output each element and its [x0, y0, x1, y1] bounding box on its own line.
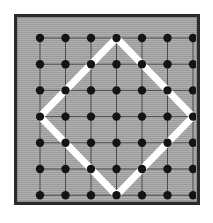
lattice-dot [138, 139, 146, 147]
lattice-dot [87, 34, 95, 42]
lattice-dot [87, 86, 95, 94]
lattice-dot [87, 191, 95, 199]
lattice-dot [189, 191, 197, 199]
lattice-dot [138, 86, 146, 94]
lattice-diagram [17, 17, 197, 202]
lattice-dot [163, 191, 171, 199]
lattice-dot [112, 86, 120, 94]
lattice-dot [138, 34, 146, 42]
lattice-dot [163, 60, 171, 68]
lattice-dot [112, 60, 120, 68]
lattice-dot [189, 34, 197, 42]
lattice-dot [112, 165, 120, 173]
lattice-dot [87, 60, 95, 68]
lattice-dot [189, 86, 197, 94]
lattice-dot [36, 34, 44, 42]
lattice-dot [138, 191, 146, 199]
lattice-dot [112, 112, 120, 120]
lattice-dot [163, 34, 171, 42]
figure-frame [14, 14, 200, 205]
lattice-dot [163, 112, 171, 120]
lattice-dot [36, 139, 44, 147]
lattice-dot [138, 60, 146, 68]
lattice-dot [61, 34, 69, 42]
lattice-dot [61, 191, 69, 199]
lattice-dot [87, 112, 95, 120]
lattice-dot [61, 139, 69, 147]
lattice-dot [36, 60, 44, 68]
lattice-dot [36, 191, 44, 199]
lattice-dot [163, 86, 171, 94]
lattice-dot [189, 139, 197, 147]
lattice-dot [138, 112, 146, 120]
lattice-dot [36, 165, 44, 173]
lattice-dot [36, 112, 44, 120]
lattice-dot [61, 112, 69, 120]
lattice-dot [112, 34, 120, 42]
lattice-dot [36, 86, 44, 94]
lattice-dot [189, 60, 197, 68]
lattice-dot [87, 139, 95, 147]
lattice-dot [189, 165, 197, 173]
lattice-dot [61, 165, 69, 173]
lattice-dot [163, 139, 171, 147]
lattice-dot [138, 165, 146, 173]
lattice-dot [87, 165, 95, 173]
lattice-dot [61, 60, 69, 68]
lattice-dot [189, 112, 197, 120]
figure-root [0, 0, 213, 223]
lattice-dot [112, 139, 120, 147]
lattice-dot [112, 191, 120, 199]
lattice-dot [61, 86, 69, 94]
lattice-dot [163, 165, 171, 173]
